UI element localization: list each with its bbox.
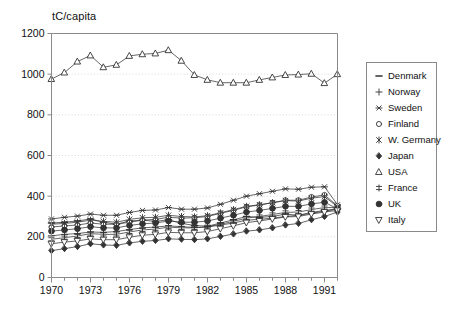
series-marker [113,62,119,68]
legend-item-japan[interactable]: Japan [367,148,436,164]
legend-item-uk[interactable]: UK [367,196,436,212]
plus-icon [373,86,385,98]
series-marker [75,226,81,232]
series-line [52,50,338,83]
series-marker [88,224,94,230]
data-series [48,47,340,86]
series-marker [322,199,328,205]
series-marker [257,208,263,214]
legend-item-denmark[interactable]: Denmark [367,68,436,84]
series-marker [62,246,67,252]
series-marker [257,227,262,233]
series-marker [179,219,185,225]
series-marker [153,220,159,226]
series-marker [62,227,68,233]
series-marker [270,206,276,212]
x-tick-label: 1973 [79,284,103,296]
series-marker [179,236,184,242]
series-marker [140,238,145,244]
asterisk-icon [373,102,385,114]
x-star-icon [373,134,385,146]
series-marker [218,233,223,239]
series-marker [231,212,237,218]
open-triangle-down-icon [373,214,385,226]
x-tick-label: 1991 [313,284,337,296]
tick-labels: 0200400600800100012001970197319761979198… [21,27,336,295]
dash-icon [373,70,385,82]
legend-item-label: Italy [388,215,405,225]
y-tick-label: 800 [27,108,45,120]
double-dagger-icon [373,182,385,194]
chart-screenshot: tC/capita 020040060080010001200197019731… [0,0,465,319]
series-marker [321,80,327,86]
legend-item-sweden[interactable]: Sweden [367,100,436,116]
legend-item-label: UK [388,199,401,209]
series-marker [127,223,133,229]
series-marker [283,222,288,228]
legend-item-label: Finland [388,119,419,129]
legend-item-label: Sweden [388,103,422,113]
y-tick-label: 600 [27,149,45,161]
x-tick-label: 1970 [40,284,64,296]
series-marker [166,218,172,224]
x-tick-label: 1982 [196,284,220,296]
legend-item-w-germany[interactable]: W. Germany [367,132,436,148]
series-marker [283,203,289,209]
legend-item-italy[interactable]: Italy [367,212,436,228]
series-marker [231,231,236,237]
y-tick-label: 0 [39,271,45,283]
series-marker [192,237,197,243]
x-tick-label: 1988 [274,284,298,296]
series-marker [296,203,302,209]
y-tick-label: 1000 [21,68,45,80]
series-marker [114,225,120,231]
series-marker [165,47,171,53]
series-marker [218,215,224,221]
filled-diamond-icon [373,150,385,162]
series-marker [153,237,158,243]
legend-item-label: USA [388,167,408,177]
data-series-group [48,47,340,254]
series-marker [178,58,184,64]
legend-item-label: France [388,183,418,193]
legend-item-usa[interactable]: USA [367,164,436,180]
series-marker [87,52,93,58]
series-marker [244,228,249,234]
legend-item-label: Norway [388,87,420,97]
series-marker [140,221,146,227]
series-marker [192,219,198,225]
series-marker [308,71,314,77]
series-marker [309,201,315,207]
y-tick-label: 400 [27,190,45,202]
legend-item-label: W. Germany [388,135,441,145]
series-marker [74,58,80,64]
series-marker [270,225,275,231]
legend-item-label: Japan [388,151,414,161]
series-marker [296,220,301,226]
legend-item-norway[interactable]: Norway [367,84,436,100]
legend-item-finland[interactable]: Finland [367,116,436,132]
open-triangle-up-icon [373,166,385,178]
series-marker [101,225,107,231]
y-tick-label: 200 [27,230,45,242]
series-marker [205,218,211,224]
open-circle-icon [373,118,385,130]
chart-legend: DenmarkNorwaySwedenFinlandW. GermanyJapa… [366,62,437,232]
legend-item-label: Denmark [388,71,427,81]
series-marker [204,77,210,83]
legend-item-france[interactable]: France [367,180,436,196]
x-tick-label: 1979 [157,284,181,296]
series-marker [166,236,171,242]
x-tick-label: 1976 [118,284,142,296]
y-tick-label: 1200 [21,27,45,39]
filled-circle-icon [373,198,385,210]
x-tick-label: 1985 [235,284,259,296]
series-marker [244,209,250,215]
